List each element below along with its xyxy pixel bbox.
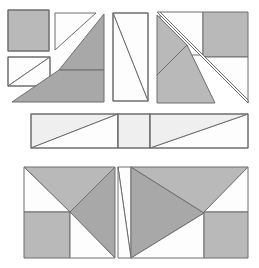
composite-square-top-right-top-right-gray-square xyxy=(203,12,248,57)
tangram-figure-root: Tangram piece arrangement Nine geometric… xyxy=(0,0,259,268)
tall-white-rect-with-diagonal xyxy=(113,13,148,101)
mid-band-rect-center-rect-fill xyxy=(118,114,150,148)
mid-band-rect-left xyxy=(31,114,118,148)
pinwheel-square-bottom-left xyxy=(24,167,115,258)
composite-rect-bottom-right xyxy=(118,167,248,258)
composite-square-top-right xyxy=(157,12,248,103)
pinwheel-square-bottom-left-bottom-left-gray-square xyxy=(24,212,70,258)
solid-gray-square-square-fill xyxy=(8,10,49,51)
mid-band-rect-center xyxy=(118,114,150,148)
pieces-layer xyxy=(8,10,248,258)
solid-gray-square xyxy=(8,10,49,51)
mid-band-rect-right xyxy=(150,114,248,148)
composite-rect-bottom-right-bottom-right-gray-square xyxy=(204,212,248,258)
tangram-canvas xyxy=(0,0,259,268)
